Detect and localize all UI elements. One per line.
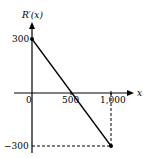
y-tick-label-neg300: −300 bbox=[4, 141, 29, 151]
x-tick-label-500: 500 bbox=[62, 95, 79, 105]
chart: R′(x) x 300 −300 0 500 1,000 bbox=[0, 0, 148, 158]
x-tick-label-1000: 1,000 bbox=[100, 95, 126, 105]
data-point-end bbox=[109, 144, 113, 148]
x-axis-arrow-icon bbox=[127, 90, 134, 96]
y-tick-label-300: 300 bbox=[12, 34, 29, 44]
x-axis-label: x bbox=[137, 88, 142, 98]
y-axis-arrow-icon bbox=[29, 22, 35, 29]
origin-label: 0 bbox=[26, 95, 32, 105]
data-point-start bbox=[30, 37, 34, 41]
y-axis-label: R′(x) bbox=[21, 10, 43, 20]
